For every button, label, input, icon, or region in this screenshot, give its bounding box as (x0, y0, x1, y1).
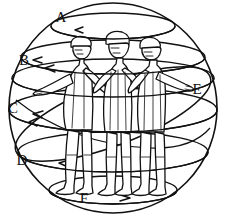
label-c: C (8, 100, 18, 116)
label-a: A (56, 9, 67, 25)
label-b: B (19, 52, 29, 68)
sphere-diagram-svg: A B C D E F (0, 0, 226, 217)
label-f: F (80, 190, 88, 206)
label-d: D (17, 152, 28, 168)
diagram-canvas: A B C D E F (0, 0, 226, 217)
label-e: E (192, 81, 201, 97)
